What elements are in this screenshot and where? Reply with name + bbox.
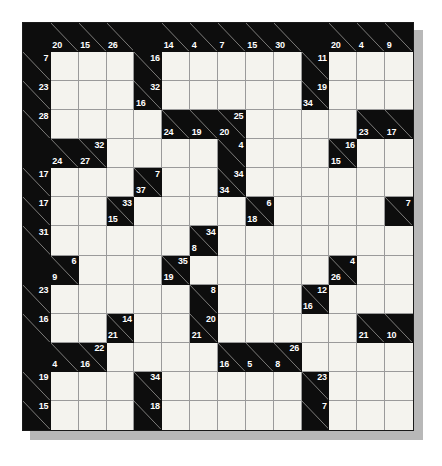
- entry-cell[interactable]: [385, 139, 413, 168]
- entry-cell[interactable]: [79, 285, 107, 314]
- entry-cell[interactable]: [218, 197, 246, 226]
- entry-cell[interactable]: [357, 343, 385, 372]
- entry-cell[interactable]: [218, 81, 246, 110]
- entry-cell[interactable]: [107, 52, 135, 81]
- entry-cell[interactable]: [246, 314, 274, 343]
- entry-cell[interactable]: [329, 52, 357, 81]
- entry-cell[interactable]: [274, 401, 302, 430]
- entry-cell[interactable]: [274, 226, 302, 255]
- entry-cell[interactable]: [329, 110, 357, 139]
- entry-cell[interactable]: [51, 314, 79, 343]
- entry-cell[interactable]: [190, 372, 218, 401]
- entry-cell[interactable]: [107, 81, 135, 110]
- entry-cell[interactable]: [246, 168, 274, 197]
- entry-cell[interactable]: [79, 168, 107, 197]
- entry-cell[interactable]: [246, 110, 274, 139]
- entry-cell[interactable]: [134, 285, 162, 314]
- entry-cell[interactable]: [302, 168, 330, 197]
- entry-cell[interactable]: [51, 285, 79, 314]
- entry-cell[interactable]: [107, 256, 135, 285]
- entry-cell[interactable]: [302, 343, 330, 372]
- entry-cell[interactable]: [218, 372, 246, 401]
- entry-cell[interactable]: [51, 110, 79, 139]
- entry-cell[interactable]: [329, 285, 357, 314]
- entry-cell[interactable]: [134, 197, 162, 226]
- entry-cell[interactable]: [302, 226, 330, 255]
- entry-cell[interactable]: [357, 226, 385, 255]
- entry-cell[interactable]: [162, 52, 190, 81]
- entry-cell[interactable]: [51, 197, 79, 226]
- entry-cell[interactable]: [79, 52, 107, 81]
- entry-cell[interactable]: [274, 168, 302, 197]
- entry-cell[interactable]: [274, 52, 302, 81]
- entry-cell[interactable]: [385, 401, 413, 430]
- entry-cell[interactable]: [274, 314, 302, 343]
- entry-cell[interactable]: [357, 256, 385, 285]
- entry-cell[interactable]: [162, 168, 190, 197]
- entry-cell[interactable]: [79, 372, 107, 401]
- entry-cell[interactable]: [357, 197, 385, 226]
- kakuro-grid[interactable]: 2015261447153020497161123321619342824192…: [22, 22, 414, 431]
- entry-cell[interactable]: [329, 314, 357, 343]
- entry-cell[interactable]: [134, 110, 162, 139]
- entry-cell[interactable]: [246, 285, 274, 314]
- entry-cell[interactable]: [107, 343, 135, 372]
- entry-cell[interactable]: [162, 372, 190, 401]
- entry-cell[interactable]: [79, 81, 107, 110]
- entry-cell[interactable]: [162, 81, 190, 110]
- entry-cell[interactable]: [385, 256, 413, 285]
- entry-cell[interactable]: [51, 81, 79, 110]
- entry-cell[interactable]: [162, 343, 190, 372]
- entry-cell[interactable]: [385, 372, 413, 401]
- entry-cell[interactable]: [274, 197, 302, 226]
- entry-cell[interactable]: [329, 81, 357, 110]
- entry-cell[interactable]: [190, 168, 218, 197]
- entry-cell[interactable]: [107, 372, 135, 401]
- entry-cell[interactable]: [329, 401, 357, 430]
- entry-cell[interactable]: [51, 226, 79, 255]
- entry-cell[interactable]: [218, 226, 246, 255]
- entry-cell[interactable]: [246, 81, 274, 110]
- entry-cell[interactable]: [51, 168, 79, 197]
- entry-cell[interactable]: [246, 226, 274, 255]
- entry-cell[interactable]: [385, 285, 413, 314]
- entry-cell[interactable]: [107, 226, 135, 255]
- entry-cell[interactable]: [79, 110, 107, 139]
- entry-cell[interactable]: [79, 197, 107, 226]
- entry-cell[interactable]: [246, 256, 274, 285]
- entry-cell[interactable]: [329, 343, 357, 372]
- entry-cell[interactable]: [162, 226, 190, 255]
- entry-cell[interactable]: [79, 256, 107, 285]
- entry-cell[interactable]: [357, 52, 385, 81]
- entry-cell[interactable]: [357, 81, 385, 110]
- entry-cell[interactable]: [218, 256, 246, 285]
- entry-cell[interactable]: [274, 372, 302, 401]
- entry-cell[interactable]: [274, 256, 302, 285]
- entry-cell[interactable]: [246, 52, 274, 81]
- entry-cell[interactable]: [246, 372, 274, 401]
- entry-cell[interactable]: [274, 81, 302, 110]
- entry-cell[interactable]: [357, 139, 385, 168]
- entry-cell[interactable]: [385, 81, 413, 110]
- entry-cell[interactable]: [190, 343, 218, 372]
- entry-cell[interactable]: [190, 256, 218, 285]
- entry-cell[interactable]: [302, 110, 330, 139]
- entry-cell[interactable]: [218, 285, 246, 314]
- entry-cell[interactable]: [79, 314, 107, 343]
- entry-cell[interactable]: [190, 81, 218, 110]
- entry-cell[interactable]: [190, 401, 218, 430]
- entry-cell[interactable]: [302, 197, 330, 226]
- entry-cell[interactable]: [329, 226, 357, 255]
- entry-cell[interactable]: [107, 110, 135, 139]
- entry-cell[interactable]: [134, 314, 162, 343]
- entry-cell[interactable]: [246, 139, 274, 168]
- entry-cell[interactable]: [134, 343, 162, 372]
- entry-cell[interactable]: [329, 168, 357, 197]
- entry-cell[interactable]: [302, 139, 330, 168]
- entry-cell[interactable]: [357, 372, 385, 401]
- entry-cell[interactable]: [274, 110, 302, 139]
- entry-cell[interactable]: [385, 168, 413, 197]
- entry-cell[interactable]: [190, 139, 218, 168]
- entry-cell[interactable]: [79, 401, 107, 430]
- entry-cell[interactable]: [218, 401, 246, 430]
